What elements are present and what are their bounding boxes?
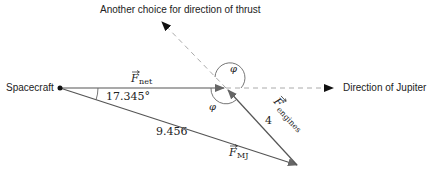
angle-arc-spacecraft [96,88,98,100]
phi-lower-label: φ [209,101,216,112]
svg-text:MJ: MJ [237,151,248,160]
svg-text:net: net [139,77,153,86]
svg-text:F: F [130,72,139,85]
alt-thrust-label: Another choice for direction of thrust [100,4,261,15]
alt-thrust-line [162,22,226,88]
phi-upper-label: φ [230,63,237,74]
fengines-label: F engines [269,93,309,134]
angle-value: 17.345° [106,90,150,103]
svg-text:engines: engines [275,105,303,134]
fmj-label: F MJ [228,145,248,161]
svg-text:F: F [228,146,237,159]
spacecraft-dot [58,86,63,91]
fnet-label: F net [130,71,153,87]
jupiter-label: Direction of Jupiter [343,82,427,93]
spacecraft-label: Spacecraft [6,82,54,93]
vector-diagram: Spacecraft Another choice for direction … [0,0,431,172]
fmj-magnitude: 9.456 [156,125,188,138]
fengines-magnitude: 4 [265,114,272,127]
